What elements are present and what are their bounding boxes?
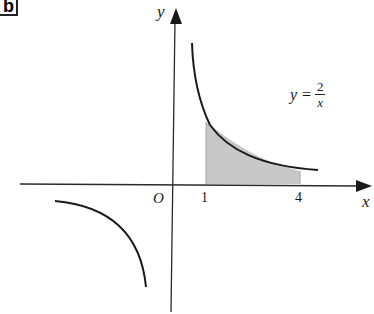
x-axis-label: x: [362, 192, 370, 212]
tick-label-1: 1: [201, 190, 208, 206]
equation-label: y = 2 x: [290, 80, 325, 109]
equation-fraction: 2 x: [315, 80, 325, 109]
equation-lhs: y: [290, 86, 297, 104]
diagram-canvas: b y x O 1 4 y = 2 x: [0, 0, 374, 314]
equation-equals: =: [302, 86, 311, 104]
graph-svg: [0, 0, 374, 314]
x-axis: [20, 184, 360, 186]
y-axis-arrow-icon: [170, 8, 182, 24]
y-axis-label: y: [157, 2, 165, 22]
tick-label-4: 4: [295, 190, 302, 206]
equation-denominator: x: [317, 96, 323, 109]
equation-numerator: 2: [317, 80, 324, 93]
x-axis-arrow-icon: [356, 180, 372, 192]
shaded-area: [206, 122, 300, 184]
origin-label: O: [153, 190, 164, 207]
hyperbola-lower-branch: [55, 201, 146, 287]
y-axis: [171, 20, 175, 312]
